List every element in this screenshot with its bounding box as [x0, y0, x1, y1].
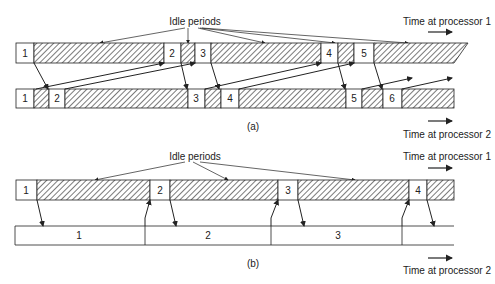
panel-b: Idle periods Time at processor 1 1 2 3 4 [15, 151, 491, 276]
time-p2-label-a: Time at processor 2 [403, 129, 491, 140]
time-p1-label-b: Time at processor 1 [403, 151, 491, 162]
task-label: 1 [23, 185, 29, 196]
task-label: 2 [157, 185, 163, 196]
task-label: 3 [335, 230, 341, 241]
idle-pointers-b [95, 162, 355, 180]
processor2-row-a: 1 2 3 4 5 6 [16, 89, 454, 108]
caption-b: (b) [247, 258, 259, 269]
idle-pointers-a [100, 28, 408, 43]
message-arrows-up-a [36, 63, 452, 89]
task-label: 3 [285, 185, 291, 196]
time-p2-label-b: Time at processor 2 [403, 265, 491, 276]
caption-a: (a) [247, 121, 259, 132]
idle-periods-label-b: Idle periods [169, 151, 221, 162]
task-label: 1 [22, 48, 28, 59]
panel-a: Idle periods Time at processor 1 1 2 [16, 16, 491, 140]
task-label: 1 [22, 93, 28, 104]
idle-periods-label-a: Idle periods [169, 16, 221, 27]
task-label: 4 [227, 93, 233, 104]
task-label: 2 [54, 93, 60, 104]
task-label: 5 [361, 48, 367, 59]
processor2-row-b: 1 2 3 [15, 226, 454, 245]
timing-diagram: Idle periods Time at processor 1 1 2 [0, 0, 495, 284]
task-label: 1 [76, 230, 82, 241]
time-p1-label-a: Time at processor 1 [403, 16, 491, 27]
task-label: 3 [193, 93, 199, 104]
task-label: 4 [326, 48, 332, 59]
task-label: 5 [351, 93, 357, 104]
message-arrows-b [37, 200, 434, 226]
task-label: 2 [205, 230, 211, 241]
task-label: 3 [200, 48, 206, 59]
task-label: 4 [415, 185, 421, 196]
processor1-row-a: 1 2 3 4 5 [16, 43, 468, 63]
processor1-row-b: 1 2 3 4 [16, 180, 454, 200]
task-label: 2 [169, 48, 175, 59]
task-label: 6 [389, 93, 395, 104]
